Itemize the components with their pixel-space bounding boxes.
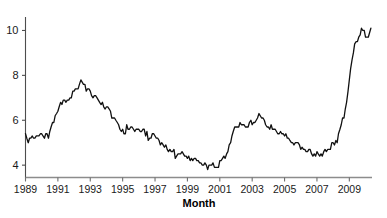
unemployment-line-chart: 46810 1989199119931995199719992001200320…: [0, 0, 387, 218]
chart-figure: 46810 1989199119931995199719992001200320…: [0, 0, 387, 218]
x-tick-label-2005: 2005: [273, 183, 297, 195]
y-tick-label-6: 6: [12, 114, 18, 126]
data-series-unemployment-rate: [26, 28, 371, 169]
x-tick-label-1989: 1989: [14, 183, 38, 195]
x-tick-label-1997: 1997: [143, 183, 167, 195]
x-tick-label-1993: 1993: [79, 183, 103, 195]
x-tick-label-2009: 2009: [338, 183, 362, 195]
y-tick-labels: 46810: [6, 24, 18, 171]
x-tick-label-1991: 1991: [46, 183, 70, 195]
x-tick-label-2003: 2003: [241, 183, 265, 195]
x-tick-label-2001: 2001: [208, 183, 232, 195]
y-tick-label-4: 4: [12, 159, 18, 171]
x-axis-title: Month: [183, 197, 216, 209]
x-tick-labels: 1989199119931995199719992001200320052007…: [14, 183, 361, 195]
y-tick-label-8: 8: [12, 69, 18, 81]
y-tick-label-10: 10: [6, 24, 18, 36]
x-tick-label-1999: 1999: [176, 183, 200, 195]
x-tick-label-2007: 2007: [305, 183, 329, 195]
x-tick-label-1995: 1995: [111, 183, 135, 195]
